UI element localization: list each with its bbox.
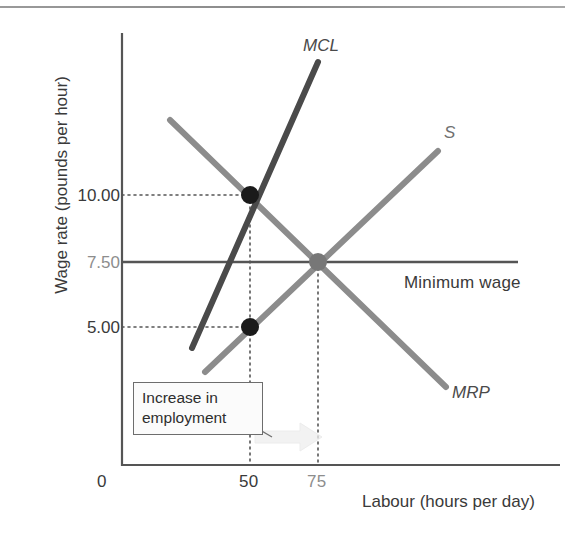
mcl-curve [192,62,318,348]
marker-mcl-mrp-intersection [241,186,259,204]
y-axis-title: Wage rate (pounds per hour) [52,60,72,310]
callout-line-1: Increase in [142,388,254,408]
y-tick-label-10: 10.00 [30,186,120,206]
curve-label-s: S [444,123,455,143]
y-tick-label-5: 5.00 [30,318,120,338]
marker-monopsony-wage [241,318,259,336]
x-tick-label-75: 75 [307,472,326,492]
y-tick-label-7-50: 7.50 [30,253,120,273]
marker-minimum-wage-employment [309,253,327,271]
callout-line-2: employment [142,408,254,428]
minimum-wage-label: Minimum wage [404,273,521,293]
increase-arrow-icon [255,423,322,451]
x-tick-label-50: 50 [239,472,258,492]
economics-figure: 10.00 7.50 5.00 0 50 75 MCL S MRP Minimu… [0,0,565,534]
curve-label-mrp: MRP [452,383,490,403]
mrp-curve [170,120,446,387]
x-tick-label-0: 0 [97,472,107,492]
increase-in-employment-callout: Increase in employment [133,382,263,435]
curve-label-mcl: MCL [303,36,339,56]
x-axis-title: Labour (hours per day) [362,492,535,512]
